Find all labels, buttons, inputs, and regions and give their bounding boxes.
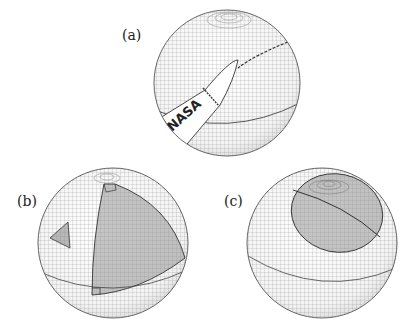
- sphere-c: [245, 165, 400, 321]
- sphere-figure: NASA: [0, 0, 416, 327]
- sphere-a: NASA: [150, 8, 305, 163]
- sphere-b: [36, 166, 191, 321]
